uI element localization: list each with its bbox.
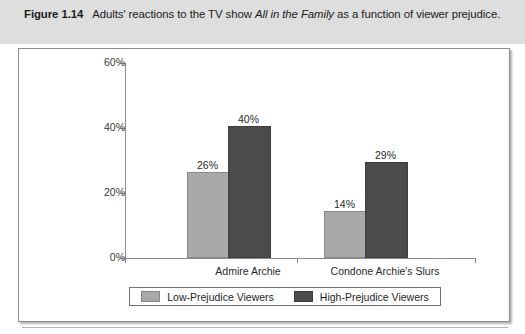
figure-frame: 0%20%40%60% 26%40%14%29% Admire ArchieCo… [18,48,510,322]
y-axis-tick-label-wrap: 20% [61,193,125,194]
bar-low-prejudice-1 [187,172,230,259]
bar-value-label: 14% [318,198,371,210]
y-axis-tick-label: 20% [79,186,125,198]
legend-entry-low-prejudice: Low-Prejudice Viewers [141,291,274,303]
x-axis-tick [475,258,476,263]
legend-label-low-prejudice: Low-Prejudice Viewers [167,291,274,303]
y-axis-line [125,63,126,259]
legend-entry-high-prejudice: High-Prejudice Viewers [294,291,429,303]
page-divider-rule [22,327,508,328]
caption-show-title: All in the Family [255,8,334,20]
chart-legend: Low-Prejudice Viewers High-Prejudice Vie… [129,287,441,306]
legend-swatch-icon-high-prejudice [294,291,313,302]
x-axis-line [125,258,475,259]
legend-label-high-prejudice: High-Prejudice Viewers [320,291,429,303]
x-axis-category-label: Condone Archie's Slurs [295,265,475,277]
x-axis-tick [125,258,126,263]
bar-high-prejudice-2 [365,162,408,258]
bar-high-prejudice-1 [228,126,271,258]
y-axis-tick-label-wrap: 0% [61,258,125,259]
bar-value-label: 26% [181,159,234,171]
bar-value-label: 40% [222,113,275,125]
caption-trail-text: as a function of viewer prejudice. [334,8,500,20]
bar-chart-plot-area: 0%20%40%60% 26%40%14%29% Admire ArchieCo… [19,49,511,323]
figure-number-label: Figure 1.14 [24,8,83,20]
x-axis-tick [297,258,298,263]
y-axis-tick-label: 0% [79,251,125,263]
y-axis-tick-label: 40% [79,121,125,133]
bar-low-prejudice-2 [324,211,367,259]
figure-caption-band: Figure 1.14Adults' reactions to the TV s… [0,0,525,44]
y-axis-tick-label-wrap: 60% [61,63,125,64]
legend-swatch-icon-low-prejudice [141,291,160,302]
y-axis-tick-label-wrap: 40% [61,128,125,129]
bar-value-label: 29% [359,149,412,161]
figure-caption-text: Figure 1.14Adults' reactions to the TV s… [24,6,502,22]
caption-lead-text: Adults' reactions to the TV show [92,8,255,20]
y-axis-tick-label: 60% [79,56,125,68]
